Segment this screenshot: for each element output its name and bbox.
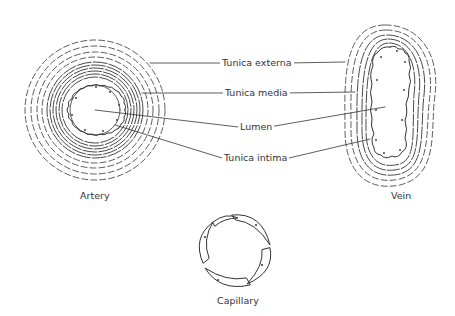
vein-tunica-media <box>357 35 425 175</box>
vein-tunica-externa <box>345 25 436 186</box>
callout-tunica-media: Tunica media <box>223 87 290 98</box>
callout-tunica-intima: Tunica intima <box>222 152 289 163</box>
capillary-drawing <box>199 215 271 287</box>
vein-label: Vein <box>389 190 413 201</box>
vein-tunica-intima <box>371 46 411 157</box>
artery-label: Artery <box>78 190 112 201</box>
capillary-label: Capillary <box>215 295 261 306</box>
callout-lumen: Lumen <box>238 121 274 132</box>
callout-tunica-externa: Tunica externa <box>220 57 294 68</box>
callout-lines <box>95 62 385 158</box>
